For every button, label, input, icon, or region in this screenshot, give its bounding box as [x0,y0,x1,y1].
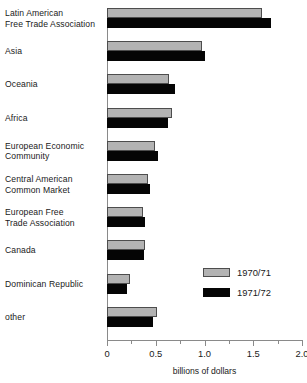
x-tick-major [107,340,108,346]
legend-swatch-1971-72 [203,288,230,297]
bar-1970-71 [107,108,172,118]
x-tick-label: 1.5 [247,348,260,359]
bar-1970-71 [107,274,130,284]
bar-1970-71 [107,141,155,151]
x-tick-major [156,340,157,346]
category-label: Latin AmericanFree Trade Association [5,8,105,29]
x-tick-label: 0.5 [149,348,162,359]
x-tick-minor [278,340,279,344]
x-tick-minor [180,340,181,344]
bar-1970-71 [107,74,169,84]
bar-1971-72 [107,151,158,161]
x-tick-major [302,340,303,346]
category-label: Africa [5,113,105,124]
category-label: European FreeTrade Association [5,207,105,228]
bar-1971-72 [107,184,150,194]
category-label: Asia [5,46,105,57]
category-label: Central AmericanCommon Market [5,174,105,195]
category-label: other [5,312,105,323]
bar-1971-72 [107,317,153,327]
legend-swatch-1970-71 [203,268,230,277]
bar-1971-72 [107,118,168,128]
bar-1970-71 [107,307,157,317]
bar-1971-72 [107,250,144,260]
bar-chart: Latin AmericanFree Trade AssociationAsia… [0,0,307,383]
bar-1971-72 [107,51,205,61]
bar-1971-72 [107,284,127,294]
bar-1971-72 [107,84,175,94]
bar-1971-72 [107,18,271,28]
x-tick-label: 0 [104,348,109,359]
x-axis-title: billions of dollars [107,366,302,376]
legend-label-1971-72: 1971/72 [237,286,271,299]
bar-1970-71 [107,8,262,18]
category-label: Oceania [5,79,105,90]
bar-1970-71 [107,41,202,51]
x-tick-major [253,340,254,346]
x-tick-label: 1.0 [198,348,211,359]
category-label: Canada [5,245,105,256]
x-tick-minor [229,340,230,344]
bar-1970-71 [107,240,145,250]
legend-label-1970-71: 1970/71 [237,266,271,279]
bar-1970-71 [107,174,148,184]
bar-1971-72 [107,217,145,227]
category-label: European EconomicCommunity [5,141,105,162]
category-label: Dominican Republic [5,279,105,290]
x-tick-major [205,340,206,346]
x-tick-minor [131,340,132,344]
x-tick-label: 2.0 [295,348,307,359]
bar-1970-71 [107,207,143,217]
